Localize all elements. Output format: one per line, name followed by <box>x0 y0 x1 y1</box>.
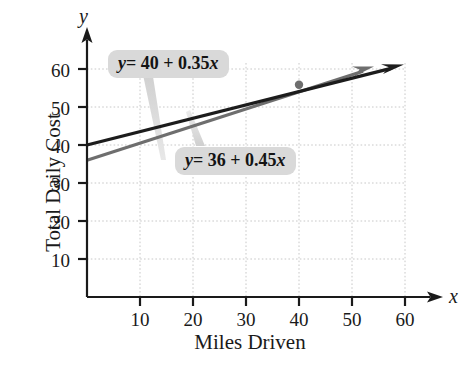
leader-line-eq1 <box>142 70 166 160</box>
x-tick-label-30: 30 <box>226 310 266 329</box>
x-tick-marks <box>140 297 405 306</box>
y-axis-variable: y <box>79 6 88 26</box>
y-axis-title: Total Daily Cost <box>41 83 66 283</box>
y-tick-marks <box>78 69 87 259</box>
y-tick-label-60: 60 <box>30 61 70 80</box>
grid-lines <box>87 63 405 297</box>
x-tick-label-20: 20 <box>173 310 213 329</box>
x-tick-label-60: 60 <box>385 310 425 329</box>
intersection-point <box>295 81 303 89</box>
x-tick-label-10: 10 <box>120 310 160 329</box>
equation-label-line2: y= 36 + 0.45x <box>175 147 296 175</box>
equation2-x: x <box>277 150 286 170</box>
equation2-body: = 36 + 0.45 <box>193 150 277 170</box>
equation1-y: y <box>118 53 126 73</box>
equation2-y: y <box>185 150 193 170</box>
cost-vs-miles-chart: 60 50 40 30 20 10 10 20 30 40 50 60 y x … <box>0 0 472 366</box>
x-tick-label-50: 50 <box>332 310 372 329</box>
equation-label-line1: y= 40 + 0.35x <box>108 50 229 78</box>
equation1-body: = 40 + 0.35 <box>126 53 210 73</box>
x-axis-variable: x <box>449 286 458 306</box>
x-tick-label-40: 40 <box>279 310 319 329</box>
x-axis-title: Miles Driven <box>100 330 400 355</box>
equation1-x: x <box>210 53 219 73</box>
